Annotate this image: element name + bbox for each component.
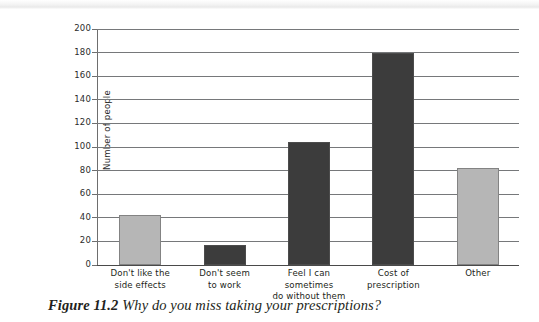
x-axis-label: Other [436, 268, 520, 280]
y-tick-80 [92, 170, 97, 171]
y-tick-200 [92, 29, 97, 30]
figure-page: Number of people 20018016014012010080604… [0, 0, 539, 322]
y-tick-160 [92, 76, 97, 77]
x-axis-label: Don't like theside effects [98, 268, 182, 291]
y-tick-label-180: 180 [74, 48, 91, 57]
bar-series [98, 29, 519, 265]
bar-chart-figure: Number of people 20018016014012010080604… [0, 0, 539, 322]
x-axis-label-line: to work [182, 280, 266, 292]
figure-caption: Figure 11.2 Why do you miss taking your … [48, 297, 381, 314]
y-tick-label-140: 140 [74, 95, 91, 104]
bar [288, 142, 330, 265]
bar-slot [436, 29, 520, 265]
y-tick-label-20: 20 [80, 236, 91, 245]
y-tick-label-100: 100 [74, 142, 91, 151]
y-tick-20 [92, 241, 97, 242]
y-tick-label-40: 40 [80, 213, 91, 222]
x-axis-labels: Don't like theside effectsDon't seemto w… [98, 268, 519, 298]
y-tick-140 [92, 99, 97, 100]
bar [457, 168, 499, 265]
y-tick-120 [92, 123, 97, 124]
x-axis-label-line: prescription [351, 280, 435, 292]
bar [372, 53, 414, 265]
y-tick-label-160: 160 [74, 71, 91, 80]
y-tick-label-60: 60 [80, 189, 91, 198]
y-tick-60 [92, 194, 97, 195]
figure-caption-title: Why do you miss taking your prescription… [122, 297, 381, 313]
y-tick-label-0: 0 [85, 260, 91, 269]
bar-slot [351, 29, 435, 265]
y-tick-180 [92, 52, 97, 53]
x-axis-label-line: Don't like the [98, 268, 182, 280]
x-axis-label-line: Don't seem [182, 268, 266, 280]
bar-slot [182, 29, 266, 265]
y-tick-label-200: 200 [74, 24, 91, 33]
x-axis-label-line: Feel I can sometimes [267, 268, 351, 291]
y-tick-label-80: 80 [80, 166, 91, 175]
x-axis-label: Don't seemto work [182, 268, 266, 291]
x-axis-label-line: Cost of [351, 268, 435, 280]
y-tick-label-120: 120 [74, 118, 91, 127]
figure-number: Figure 11.2 [48, 297, 118, 313]
x-axis-label: Cost ofprescription [351, 268, 435, 291]
bar [204, 245, 246, 265]
y-tick-40 [92, 217, 97, 218]
bar [119, 215, 161, 265]
y-tick-0 [92, 265, 97, 266]
x-axis-label-line: Other [436, 268, 520, 280]
y-tick-100 [92, 147, 97, 148]
bar-slot [267, 29, 351, 265]
y-axis-label-group: Number of people 20018016014012010080604… [63, 29, 91, 265]
bar-slot [98, 29, 182, 265]
x-axis-label-line: side effects [98, 280, 182, 292]
